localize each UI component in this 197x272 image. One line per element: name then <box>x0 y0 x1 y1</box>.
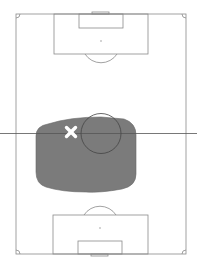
activity-zone <box>36 117 136 192</box>
top-penalty-spot <box>100 40 101 41</box>
pitch-diagram <box>0 0 197 272</box>
bottom-penalty-spot <box>99 227 100 228</box>
